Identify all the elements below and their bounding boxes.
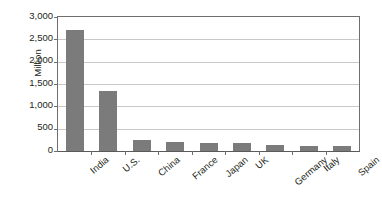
bar[interactable] bbox=[99, 91, 117, 151]
x-axis-tick-label-group: IndiaU.S.ChinaFranceJapanUKGermanyItalyS… bbox=[57, 150, 358, 198]
y-axis-tick-label-group: 05001,0001,5002,0002,5003,000 bbox=[20, 0, 53, 198]
x-axis-tick-label: China bbox=[155, 154, 181, 178]
y-axis-tick-label: 500 bbox=[20, 122, 53, 132]
x-axis-tick-label: UK bbox=[253, 154, 270, 171]
x-axis-tick-label: Japan bbox=[223, 154, 250, 179]
x-axis-tick-label: Spain bbox=[356, 154, 382, 178]
x-axis-tick-label: Germany bbox=[293, 154, 330, 188]
plot-area bbox=[57, 16, 360, 152]
y-axis-tick-label: 3,000 bbox=[20, 11, 53, 21]
y-axis-tick-label: 0 bbox=[20, 145, 53, 155]
x-axis-tick-label: U.S. bbox=[120, 154, 141, 174]
bar[interactable] bbox=[66, 30, 84, 151]
x-axis-tick-label: France bbox=[190, 154, 220, 181]
x-axis-tick-label: India bbox=[88, 154, 111, 176]
bars-group bbox=[58, 17, 359, 151]
y-axis-tick-label: 1,500 bbox=[20, 78, 53, 88]
y-axis-tick-label: 2,000 bbox=[20, 55, 53, 65]
y-axis-tick-label: 1,000 bbox=[20, 100, 53, 110]
y-axis-tick-label: 2,500 bbox=[20, 33, 53, 43]
